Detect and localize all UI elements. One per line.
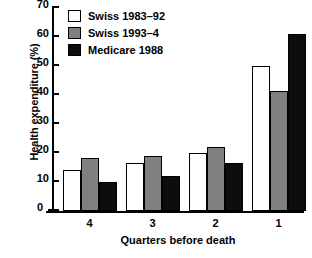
legend-item: Medicare 1988 — [68, 41, 165, 58]
legend-swatch-icon — [68, 44, 81, 56]
bar — [99, 182, 117, 211]
bar — [207, 147, 225, 211]
bar — [63, 170, 81, 211]
y-tick-label: 0 — [37, 201, 43, 213]
legend-label: Medicare 1988 — [88, 44, 163, 56]
legend-item: Swiss 1983–92 — [68, 7, 165, 24]
chart-legend: Swiss 1983–92Swiss 1993–4Medicare 1988 — [68, 7, 165, 58]
bar — [126, 163, 144, 211]
legend-label: Swiss 1983–92 — [88, 10, 165, 22]
bar — [144, 156, 162, 211]
bar — [252, 66, 270, 211]
bar-chart-figure: Health expenditure (%) 010203040506070 4… — [0, 0, 312, 258]
x-tick-label: 1 — [252, 217, 306, 229]
legend-label: Swiss 1993–4 — [88, 27, 159, 39]
y-tick-label: 70 — [37, 0, 49, 10]
legend-swatch-icon — [68, 27, 81, 39]
y-tick-label: 30 — [37, 114, 49, 126]
y-tick-label: 50 — [37, 56, 49, 68]
bar-group — [189, 8, 243, 211]
bar — [270, 91, 288, 211]
legend-item: Swiss 1993–4 — [68, 24, 165, 41]
x-tick-label: 2 — [189, 217, 243, 229]
y-axis-title: Health expenditure (%) — [28, 12, 40, 192]
bar — [288, 34, 306, 211]
bar — [81, 158, 99, 211]
legend-swatch-icon — [68, 10, 81, 22]
bar — [225, 163, 243, 211]
y-tick-label: 60 — [37, 27, 49, 39]
x-axis-line — [46, 211, 304, 213]
x-axis-title: Quarters before death — [52, 234, 304, 246]
y-tick-label: 20 — [37, 143, 49, 155]
y-tick-label: 40 — [37, 85, 49, 97]
x-tick-label: 4 — [63, 217, 117, 229]
bar — [189, 153, 207, 211]
bar-group — [252, 8, 306, 211]
y-tick-label: 10 — [37, 172, 49, 184]
bar — [162, 176, 180, 211]
x-tick-label: 3 — [126, 217, 180, 229]
